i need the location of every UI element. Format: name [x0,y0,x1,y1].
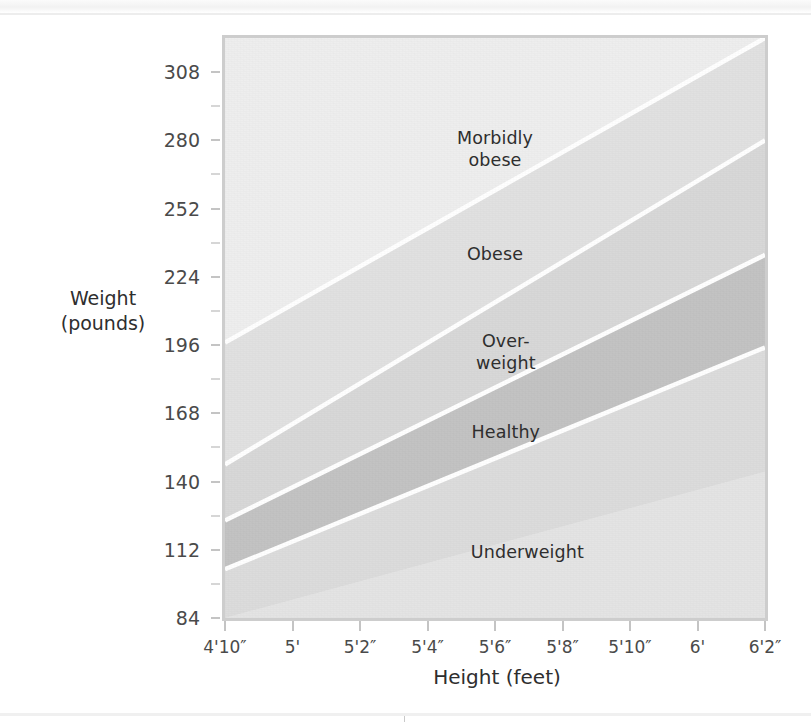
y-axis-minor-tick [211,515,220,517]
y-axis-minor-tick [211,242,220,244]
x-axis-tick [764,621,766,631]
y-axis-minor-tick [211,583,220,585]
y-axis-tick-label: 140 [130,471,200,493]
y-axis-tick-label: 252 [130,198,200,220]
x-axis-tick [562,621,564,631]
y-axis-title: Weight (pounds) [38,286,168,336]
x-axis-tick [427,621,429,631]
x-axis-tick [292,621,294,631]
y-axis-tick [211,344,220,346]
y-axis-tick-label: 112 [130,539,200,561]
y-axis-tick [211,617,220,619]
y-axis-tick [211,276,220,278]
y-axis-tick-label: 84 [130,607,200,629]
y-axis-minor-tick [211,378,220,380]
page-bottom-rule [0,713,811,716]
x-axis-tick [697,621,699,631]
y-axis-minor-tick [211,105,220,107]
bmi-chart-figure: Weight (pounds) 841121401681962242522803… [0,0,811,723]
bmi-band-regions [225,38,765,618]
x-axis-tick [494,621,496,631]
x-axis-tick [359,621,361,631]
y-axis-minor-tick [211,173,220,175]
plot-area: UnderweightHealthyOver- weightObeseMorbi… [222,35,768,621]
y-axis-tick-label: 308 [130,61,200,83]
y-axis-tick-label: 168 [130,402,200,424]
bmi-bands-svg [225,38,765,618]
y-axis-tick [211,139,220,141]
page-bottom-tick [404,716,405,722]
y-axis-tick [211,208,220,210]
y-axis-tick-label: 224 [130,266,200,288]
y-axis-tick [211,412,220,414]
y-axis-tick [211,71,220,73]
x-axis-tick [224,621,226,631]
y-axis-tick [211,481,220,483]
y-axis-tick [211,549,220,551]
x-axis-tick-label: 6'2″ [725,637,805,657]
x-axis-tick [629,621,631,631]
y-axis-tick-label: 196 [130,334,200,356]
x-axis-title: Height (feet) [322,665,672,689]
y-axis-minor-tick [211,310,220,312]
y-axis-minor-tick [211,446,220,448]
y-axis-tick-label: 280 [130,129,200,151]
